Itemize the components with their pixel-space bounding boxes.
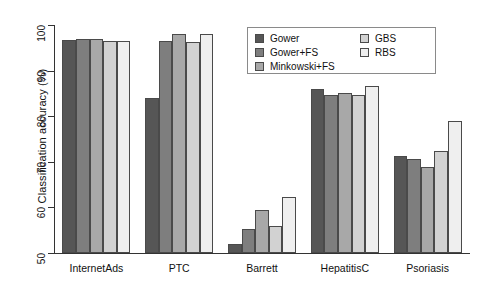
bar xyxy=(200,34,214,253)
y-tick-label-text: 60 xyxy=(36,207,48,218)
y-tick-label-text: 90 xyxy=(36,71,48,82)
y-tick-label-text: 80 xyxy=(36,116,48,127)
legend-item-label: GBS xyxy=(375,33,396,44)
legend-item: GBS xyxy=(360,32,396,45)
bar xyxy=(282,197,296,253)
bar xyxy=(269,226,283,253)
x-axis-group-label: Psoriasis xyxy=(378,262,477,274)
bar xyxy=(228,244,242,253)
legend: GowerGower+FSMinkowski+FS GBSRBS xyxy=(247,27,436,74)
legend-swatch-icon xyxy=(255,34,264,43)
bar xyxy=(76,39,90,253)
bar xyxy=(352,95,366,253)
legend-swatch-icon xyxy=(255,62,264,71)
y-tick-mark xyxy=(48,71,54,72)
bar xyxy=(172,34,186,253)
y-tick-mark xyxy=(48,162,54,163)
y-tick-mark xyxy=(48,207,54,208)
bar-chart-figure: Classification accuracy (%) 506070809010… xyxy=(0,0,477,303)
legend-item-label: Minkowski+FS xyxy=(270,61,335,72)
legend-item: RBS xyxy=(360,46,396,59)
y-axis-title: Classification accuracy (%) xyxy=(36,16,48,256)
bar xyxy=(324,95,338,253)
bar xyxy=(186,42,200,253)
y-tick-label-text: 100 xyxy=(36,25,48,42)
bar xyxy=(103,41,117,253)
legend-item-label: Gower xyxy=(270,33,299,44)
legend-swatch-icon xyxy=(360,34,369,43)
legend-swatch-icon xyxy=(360,48,369,57)
bar xyxy=(421,167,435,253)
bar xyxy=(434,151,448,253)
bar xyxy=(90,39,104,253)
legend-item-label: Gower+FS xyxy=(270,47,318,58)
legend-item: Gower xyxy=(255,32,335,45)
bar xyxy=(255,210,269,253)
x-axis-line xyxy=(54,253,470,254)
bar xyxy=(407,159,421,253)
legend-column-right: GBSRBS xyxy=(360,32,396,60)
y-tick-label-text: 70 xyxy=(36,162,48,173)
legend-item: Gower+FS xyxy=(255,46,335,59)
bar xyxy=(311,89,325,253)
y-tick-mark xyxy=(48,25,54,26)
bar xyxy=(394,156,408,253)
bar xyxy=(338,93,352,253)
legend-item-label: RBS xyxy=(375,47,396,58)
bar xyxy=(117,41,131,253)
bar-group xyxy=(145,25,213,253)
legend-column-left: GowerGower+FSMinkowski+FS xyxy=(255,32,335,74)
y-tick-mark xyxy=(48,116,54,117)
bar xyxy=(159,41,173,253)
bar xyxy=(242,229,256,253)
bar-group xyxy=(62,25,130,253)
legend-swatch-icon xyxy=(255,48,264,57)
bar xyxy=(62,40,76,253)
bar xyxy=(145,98,159,253)
legend-item: Minkowski+FS xyxy=(255,60,335,73)
bar xyxy=(448,121,462,253)
bar xyxy=(365,86,379,253)
y-tick-mark xyxy=(48,253,54,254)
